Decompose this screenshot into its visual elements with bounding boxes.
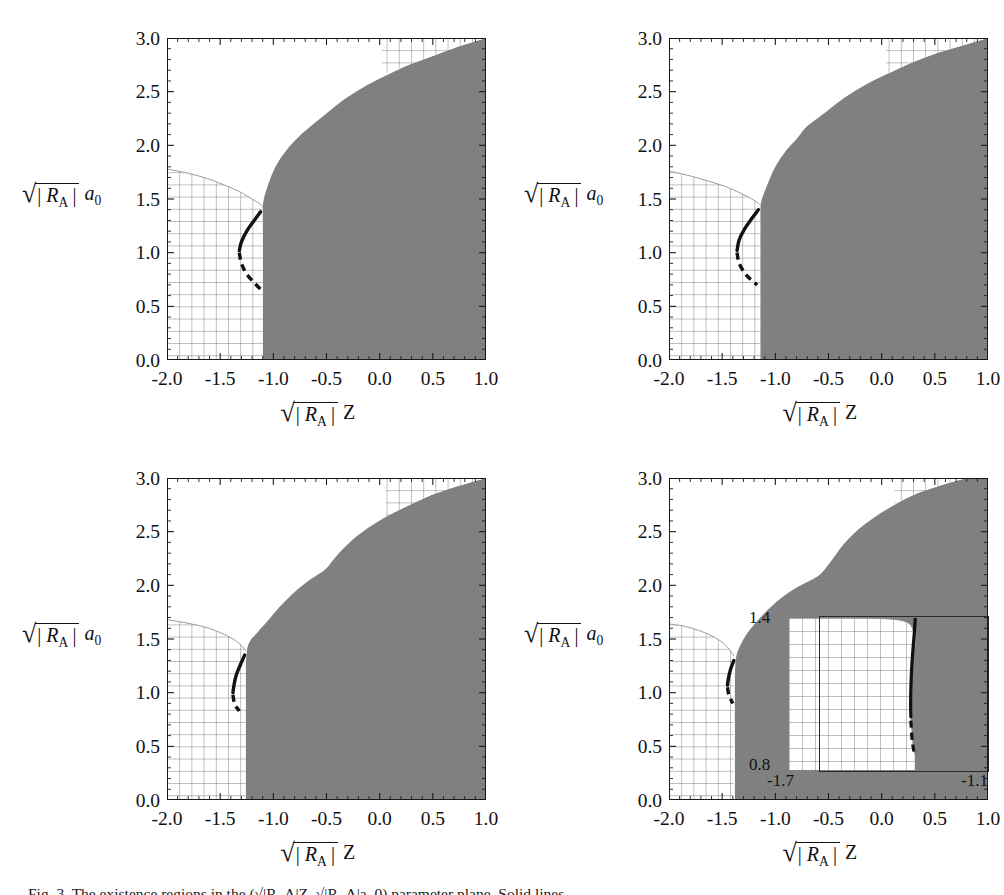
y-tick-label: 1.5 xyxy=(620,190,662,210)
x-tick-label: -0.5 xyxy=(799,809,859,829)
x-tick-label: -1.5 xyxy=(190,369,250,389)
plot-panel-bottom-left: 0.00.51.01.52.02.53.0-2.0-1.5-1.0-0.50.0… xyxy=(0,440,502,880)
y-tick-label: 3.0 xyxy=(118,469,160,489)
y-tick-label: 1.0 xyxy=(118,683,160,703)
y-tick-label: 1.0 xyxy=(118,243,160,263)
y-tick-label: 2.5 xyxy=(118,82,160,102)
y-axis-title: √| RA |a0 xyxy=(22,623,101,650)
y-tick-label: 2.5 xyxy=(620,522,662,542)
plot-panel-top-left: 0.00.51.01.52.02.53.0-2.0-1.5-1.0-0.50.0… xyxy=(0,0,502,440)
x-tick-label: -1.0 xyxy=(745,809,805,829)
y-tick-label: 1.0 xyxy=(620,683,662,703)
x-tick-label: -1.5 xyxy=(692,369,752,389)
plot-area xyxy=(167,38,486,360)
x-tick-label: -2.0 xyxy=(639,809,699,829)
y-tick-label: 0.5 xyxy=(620,297,662,317)
plot-panel-bottom-right: 0.00.51.01.52.02.53.0-2.0-1.5-1.0-0.50.0… xyxy=(502,440,1004,880)
plot-panel-top-right: 0.00.51.01.52.02.53.0-2.0-1.5-1.0-0.50.0… xyxy=(502,0,1004,440)
x-tick-label: -1.5 xyxy=(190,809,250,829)
x-axis-title: √| RA |Z xyxy=(783,842,858,869)
x-tick-label: -1.5 xyxy=(692,809,752,829)
plot-frame xyxy=(167,38,486,360)
inset-canvas xyxy=(789,618,937,770)
x-tick-label: -1.0 xyxy=(243,809,303,829)
figure-panel-grid: 0.00.51.01.52.02.53.0-2.0-1.5-1.0-0.50.0… xyxy=(0,0,1004,895)
y-tick-label: 2.0 xyxy=(620,136,662,156)
x-tick-label: 0.0 xyxy=(852,369,912,389)
y-tick-label: 2.5 xyxy=(118,522,160,542)
y-tick-label: 3.0 xyxy=(118,29,160,49)
y-axis-title: √| RA |a0 xyxy=(22,183,101,210)
y-tick-label: 2.0 xyxy=(620,576,662,596)
y-tick-label: 2.5 xyxy=(620,82,662,102)
inset-x-tick-label-min: -1.7 xyxy=(767,772,794,789)
y-axis-title: √| RA |a0 xyxy=(524,623,603,650)
x-axis-title: √| RA |Z xyxy=(281,842,356,869)
x-tick-label: 0.0 xyxy=(350,809,410,829)
x-axis-title: √| RA |Z xyxy=(783,402,858,429)
x-tick-label: -1.0 xyxy=(243,369,303,389)
x-tick-label: 0.0 xyxy=(350,369,410,389)
y-tick-label: 1.5 xyxy=(118,190,160,210)
y-tick-label: 3.0 xyxy=(620,29,662,49)
x-tick-label: -1.0 xyxy=(745,369,805,389)
y-tick-label: 1.5 xyxy=(620,630,662,650)
x-tick-label: -2.0 xyxy=(137,809,197,829)
x-tick-label: 0.5 xyxy=(403,369,463,389)
y-tick-label: 2.0 xyxy=(118,576,160,596)
x-tick-label: -2.0 xyxy=(639,369,699,389)
x-tick-label: 0.0 xyxy=(852,809,912,829)
y-tick-label: 1.5 xyxy=(118,630,160,650)
x-tick-label: 1.0 xyxy=(958,369,1004,389)
x-axis-title: √| RA |Z xyxy=(281,402,356,429)
inset-y-tick-label-max: 1.4 xyxy=(749,609,770,626)
y-axis-title: √| RA |a0 xyxy=(524,183,603,210)
y-tick-label: 2.0 xyxy=(118,136,160,156)
y-tick-label: 1.0 xyxy=(620,243,662,263)
x-tick-label: -0.5 xyxy=(799,369,859,389)
y-tick-label: 0.5 xyxy=(620,737,662,757)
x-tick-label: -0.5 xyxy=(297,809,357,829)
figure-caption: Fig. 3. The existence regions in the (√|… xyxy=(28,884,978,895)
y-tick-label: 0.5 xyxy=(118,737,160,757)
plot-frame xyxy=(669,38,988,360)
inset-hatched-region xyxy=(789,618,915,770)
x-tick-label: 0.5 xyxy=(403,809,463,829)
plot-area xyxy=(669,38,988,360)
y-tick-label: 0.5 xyxy=(118,297,160,317)
x-tick-label: 1.0 xyxy=(958,809,1004,829)
inset-plot xyxy=(789,618,937,770)
plot-area xyxy=(167,478,486,800)
y-tick-label: 3.0 xyxy=(620,469,662,489)
inset-x-tick-label-max: -1.1 xyxy=(961,772,988,789)
x-tick-label: 0.5 xyxy=(905,809,965,829)
x-tick-label: 0.5 xyxy=(905,369,965,389)
x-tick-label: -0.5 xyxy=(297,369,357,389)
x-tick-label: -2.0 xyxy=(137,369,197,389)
plot-frame xyxy=(167,478,486,800)
